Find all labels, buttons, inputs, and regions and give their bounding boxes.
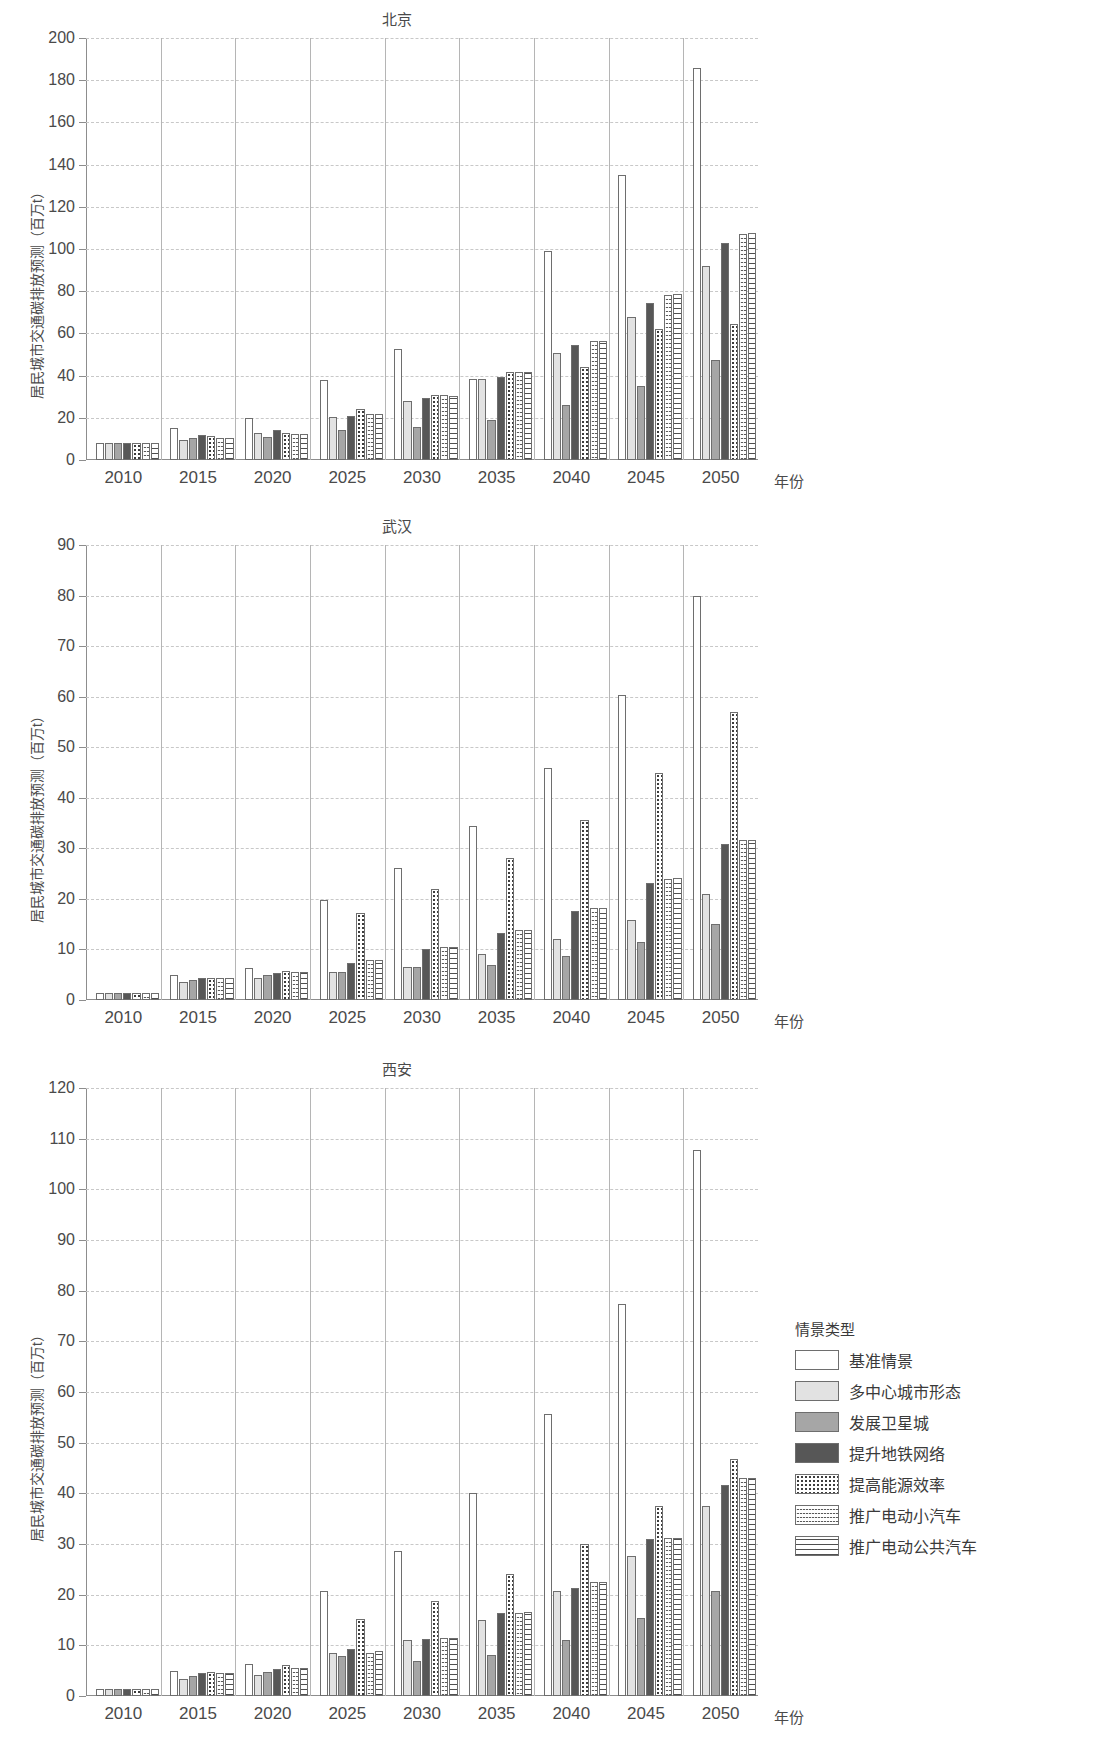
bar-1 — [618, 1304, 626, 1696]
bar-2 — [179, 982, 187, 1000]
x-axis-tick-label: 2040 — [552, 468, 590, 488]
x-axis-tick-label: 2020 — [254, 468, 292, 488]
x-axis-label: 年份 — [774, 470, 804, 491]
legend-item-5[interactable]: 提高能源效率 — [795, 1472, 977, 1496]
x-axis-tick-label: 2035 — [478, 1008, 516, 1028]
bar-3 — [711, 360, 719, 460]
y-axis-tick-label: 80 — [57, 587, 75, 605]
group-separator — [385, 545, 386, 1000]
y-axis-tick — [79, 376, 86, 377]
bar-3 — [637, 942, 645, 1000]
y-axis-tick-label: 30 — [57, 1535, 75, 1553]
bar-1 — [693, 1150, 701, 1696]
y-axis-tick-label: 140 — [48, 156, 75, 174]
bar-4 — [646, 303, 654, 460]
y-axis-tick — [79, 1139, 86, 1140]
bar-2 — [478, 954, 486, 1001]
legend-item-4[interactable]: 提升地铁网络 — [795, 1441, 977, 1465]
y-axis-tick — [79, 1189, 86, 1190]
bar-6 — [142, 443, 150, 460]
bar-6 — [739, 840, 747, 1000]
bar-1 — [96, 1689, 104, 1696]
bar-group — [469, 38, 532, 460]
bar-3 — [189, 1676, 197, 1696]
group-separator — [534, 1088, 535, 1696]
bar-2 — [478, 1620, 486, 1696]
bar-6 — [291, 1668, 299, 1696]
y-axis-tick-label: 80 — [57, 1282, 75, 1300]
bar-2 — [105, 443, 113, 460]
x-axis-tick-label: 2050 — [702, 1704, 740, 1724]
bar-group — [469, 545, 532, 1000]
group-separator — [534, 545, 535, 1000]
bar-2 — [254, 433, 262, 460]
legend-item-label: 基准情景 — [849, 1348, 913, 1372]
legend-item-3[interactable]: 发展卫星城 — [795, 1410, 977, 1434]
bar-group — [394, 1088, 457, 1696]
bar-5 — [132, 1689, 140, 1696]
bar-3 — [711, 1591, 719, 1696]
bar-5 — [356, 409, 364, 460]
group-separator — [385, 38, 386, 460]
bar-group — [320, 1088, 383, 1696]
bar-7 — [673, 1538, 681, 1696]
bar-1 — [96, 443, 104, 460]
bar-5 — [431, 395, 439, 460]
bar-1 — [693, 68, 701, 460]
bar-6 — [216, 438, 224, 460]
legend-item-2[interactable]: 多中心城市形态 — [795, 1379, 977, 1403]
y-axis-tick — [79, 1544, 86, 1545]
y-axis-tick — [79, 1443, 86, 1444]
bar-2 — [254, 1675, 262, 1696]
x-axis-tick-label: 2035 — [478, 468, 516, 488]
legend-item-7[interactable]: 推广电动公共汽车 — [795, 1534, 977, 1558]
bar-2 — [553, 939, 561, 1000]
bar-3 — [413, 1661, 421, 1696]
bar-7 — [375, 960, 383, 1000]
y-axis-tick — [79, 291, 86, 292]
group-separator — [235, 38, 236, 460]
bar-5 — [730, 712, 738, 1000]
bar-6 — [291, 434, 299, 460]
legend-item-label: 发展卫星城 — [849, 1410, 929, 1434]
bar-6 — [664, 295, 672, 460]
legend-item-1[interactable]: 基准情景 — [795, 1348, 977, 1372]
y-axis-tick — [79, 38, 86, 39]
bar-2 — [403, 1640, 411, 1696]
legend-item-6[interactable]: 推广电动小汽车 — [795, 1503, 977, 1527]
bar-6 — [590, 341, 598, 460]
bar-5 — [580, 1544, 588, 1696]
bar-2 — [329, 417, 337, 460]
x-axis-tick-label: 2025 — [328, 1704, 366, 1724]
y-axis-tick-label: 40 — [57, 367, 75, 385]
bar-7 — [151, 1689, 159, 1696]
bar-5 — [580, 367, 588, 460]
bar-group — [320, 545, 383, 1000]
plot-area: 0102030405060708090100110120201020152020… — [86, 1088, 758, 1696]
bar-4 — [347, 416, 355, 460]
bar-group — [693, 1088, 756, 1696]
bar-3 — [562, 1640, 570, 1696]
bar-6 — [515, 1613, 523, 1696]
y-axis-tick — [79, 747, 86, 748]
bar-6 — [440, 395, 448, 460]
group-separator — [534, 38, 535, 460]
bar-4 — [347, 963, 355, 1000]
bar-1 — [245, 968, 253, 1000]
bar-3 — [487, 965, 495, 1000]
bar-4 — [422, 1639, 430, 1696]
bar-7 — [449, 1638, 457, 1696]
bar-6 — [664, 1538, 672, 1696]
y-axis-tick-label: 70 — [57, 637, 75, 655]
bar-5 — [132, 443, 140, 460]
bar-7 — [599, 1582, 607, 1696]
y-axis-tick — [79, 646, 86, 647]
y-axis-tick-label: 20 — [57, 409, 75, 427]
y-axis-tick — [79, 418, 86, 419]
bar-5 — [655, 329, 663, 460]
x-axis-tick-label: 2015 — [179, 468, 217, 488]
y-axis-tick-label: 180 — [48, 71, 75, 89]
bar-7 — [599, 341, 607, 460]
energy-efficiency-swatch — [795, 1474, 839, 1494]
bar-7 — [748, 1478, 756, 1696]
